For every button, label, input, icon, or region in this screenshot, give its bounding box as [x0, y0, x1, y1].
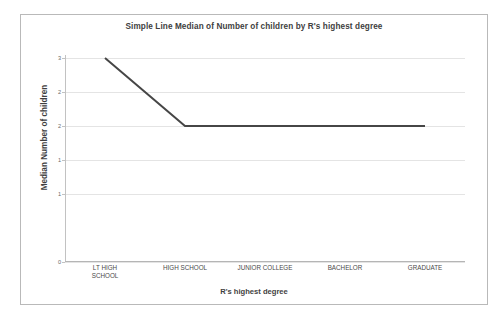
- plot-area: 322110: [65, 58, 465, 262]
- y-axis-tick-label: 1: [58, 191, 61, 197]
- x-axis-title: R's highest degree: [21, 287, 487, 296]
- y-axis-tick-label: 0: [58, 259, 61, 265]
- y-axis-tick-mark: [62, 262, 65, 263]
- gridline: [65, 262, 465, 263]
- y-axis-title: Median Number of children: [40, 68, 49, 208]
- chart-title: Simple Line Median of Number of children…: [21, 22, 487, 31]
- y-axis-tick-label: 2: [58, 89, 61, 95]
- y-axis-tick-label: 1: [58, 157, 61, 163]
- y-axis-tick-label: 3: [58, 55, 61, 61]
- chart-frame: Simple Line Median of Number of children…: [20, 14, 488, 305]
- series-polyline: [105, 58, 425, 126]
- line-series: [65, 58, 465, 262]
- x-axis-category-label: GRADUATE: [385, 264, 465, 288]
- x-axis-category-label: JUNIOR COLLEGE: [225, 264, 305, 288]
- x-axis-category-labels: LT HIGH SCHOOLHIGH SCHOOLJUNIOR COLLEGEB…: [65, 264, 465, 288]
- x-axis-category-label: BACHELOR: [305, 264, 385, 288]
- x-axis-category-label: LT HIGH SCHOOL: [65, 264, 145, 288]
- y-axis-tick-label: 2: [58, 123, 61, 129]
- x-axis-category-label: HIGH SCHOOL: [145, 264, 225, 288]
